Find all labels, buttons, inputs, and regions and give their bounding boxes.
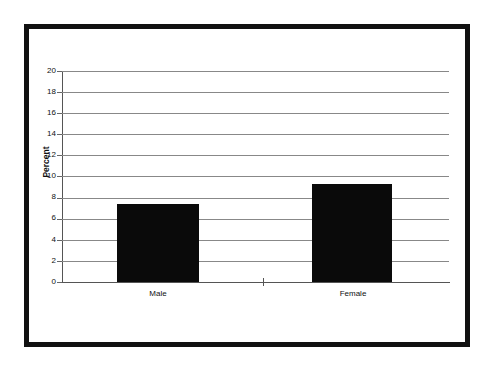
scanned-page: 20 18 16 14 12 10 8 6 4 2 0 xyxy=(0,0,496,371)
gridline-16 xyxy=(62,113,449,114)
gridline-10 xyxy=(62,176,449,177)
gridline-20 xyxy=(62,71,449,72)
y-tick-label: 2 xyxy=(30,257,56,265)
bar-female[interactable] xyxy=(312,184,392,282)
y-tick-label: 4 xyxy=(30,236,56,244)
gridline-14 xyxy=(62,134,449,135)
y-tick-label: 20 xyxy=(30,67,56,75)
x-tick-label-female: Female xyxy=(318,289,388,298)
x-tick-label-male: Male xyxy=(123,289,193,298)
y-tick-label: 6 xyxy=(30,214,56,222)
bar-chart: 20 18 16 14 12 10 8 6 4 2 0 xyxy=(29,29,465,342)
x-axis-line xyxy=(62,282,450,283)
gridline-18 xyxy=(62,92,449,93)
y-tick-label: 0 xyxy=(30,278,56,286)
y-axis-title: Percent xyxy=(41,132,51,192)
bar-male[interactable] xyxy=(117,204,199,282)
plot-area xyxy=(62,71,449,282)
gridline-12 xyxy=(62,155,449,156)
y-tick-label: 8 xyxy=(30,193,56,201)
figure-frame: 20 18 16 14 12 10 8 6 4 2 0 xyxy=(24,24,470,347)
y-tick-label: 18 xyxy=(30,88,56,96)
x-axis-category-tick xyxy=(263,278,264,286)
y-tick-label: 16 xyxy=(30,109,56,117)
